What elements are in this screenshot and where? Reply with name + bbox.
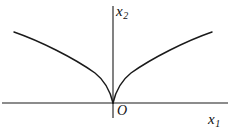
x-axis-label-subscript: 1 (215, 118, 220, 129)
y-axis-label: x2 (116, 4, 128, 19)
curve-left-branch (14, 32, 113, 103)
x-axis-label: x1 (208, 112, 220, 127)
y-axis-label-subscript: 2 (123, 10, 128, 21)
x-axis-label-text: x (208, 111, 215, 127)
origin-label: O (117, 104, 127, 118)
curve-right-branch (113, 32, 212, 103)
math-figure: x2 x1 O (0, 0, 234, 136)
y-axis-label-text: x (116, 3, 123, 19)
